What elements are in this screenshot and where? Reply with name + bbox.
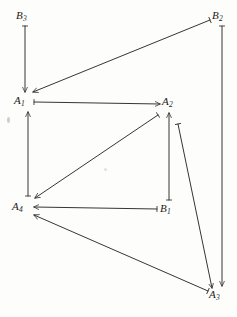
node-sub-a2: 2 bbox=[169, 100, 173, 109]
node-label-a4: A4 bbox=[12, 200, 23, 214]
node-label-b3: B3 bbox=[16, 9, 27, 23]
node-base-a3: A bbox=[209, 288, 216, 300]
node-base-a4: A bbox=[12, 200, 19, 212]
node-sub-b2: 2 bbox=[219, 14, 223, 23]
node-label-a1: A1 bbox=[14, 94, 25, 108]
edge-a1-to-a2 bbox=[34, 102, 160, 104]
node-base-a1: A bbox=[14, 94, 21, 106]
edge-a2-to-a3 bbox=[178, 124, 212, 288]
node-base-b1: B bbox=[160, 202, 167, 214]
diagram-canvas: B3 B2 A1 A2 A4 B1 A3 bbox=[0, 0, 237, 317]
node-label-a3: A3 bbox=[209, 288, 220, 302]
node-base-b2: B bbox=[212, 9, 219, 21]
node-sub-a3: 3 bbox=[216, 293, 220, 302]
node-base-a2: A bbox=[162, 95, 169, 107]
edge-b2-to-a1 bbox=[33, 20, 210, 92]
graph-edges-svg bbox=[0, 0, 237, 317]
paper-speck bbox=[7, 117, 10, 123]
node-label-a2: A2 bbox=[162, 95, 173, 109]
node-sub-b3: 3 bbox=[23, 14, 27, 23]
node-sub-a1: 1 bbox=[21, 99, 25, 108]
node-label-b2: B2 bbox=[212, 9, 223, 23]
paper-speck bbox=[104, 168, 107, 171]
edge-a3-to-a4 bbox=[34, 215, 208, 291]
edge-b1-to-a4 bbox=[34, 207, 157, 209]
node-label-b1: B1 bbox=[160, 202, 171, 216]
node-base-b3: B bbox=[16, 9, 23, 21]
node-sub-a4: 4 bbox=[19, 205, 23, 214]
node-sub-b1: 1 bbox=[167, 207, 171, 216]
edge-a2-to-a4 bbox=[35, 115, 158, 198]
